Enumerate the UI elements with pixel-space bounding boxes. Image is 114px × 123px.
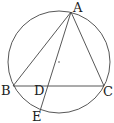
label-a: A: [72, 0, 83, 15]
label-c: C: [103, 84, 113, 99]
segment-ab: [13, 12, 71, 86]
label-d: D: [34, 83, 44, 98]
geometry-diagram: A B C D E: [0, 0, 114, 123]
segment-ac: [71, 12, 104, 86]
circle-center-dot: [58, 61, 60, 63]
label-e: E: [32, 109, 42, 123]
segment-ae: [40, 12, 71, 111]
label-b: B: [1, 83, 11, 98]
